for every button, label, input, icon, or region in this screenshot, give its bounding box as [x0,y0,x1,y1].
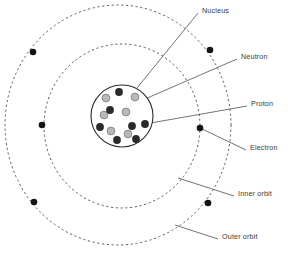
neutron-leader [145,59,237,99]
proton-particle[interactable] [102,94,110,102]
label-electron: Electron [250,143,278,152]
neutron-particle[interactable] [141,120,149,128]
atom-diagram-canvas: Nucleus Neutron Proton Electron Inner or… [0,0,288,254]
labels-group: Nucleus Neutron Proton Electron Inner or… [202,6,278,241]
proton-particle[interactable] [122,108,130,116]
leader-lines-group [137,13,247,239]
neutron-particle[interactable] [113,136,121,144]
electron-leader [200,128,246,150]
electron-outer[interactable] [207,47,214,54]
label-inner-orbit: Inner orbit [238,189,272,198]
electron-outer[interactable] [205,200,212,207]
proton-leader [145,106,247,124]
label-nucleus: Nucleus [202,6,229,15]
label-neutron: Neutron [241,52,268,61]
neutron-particle[interactable] [132,135,140,143]
atom-diagram-svg: Nucleus Neutron Proton Electron Inner or… [0,0,288,254]
label-proton: Proton [251,99,273,108]
proton-particle[interactable] [107,127,115,135]
proton-particle[interactable] [100,111,108,119]
outer-orbit-leader [175,225,218,239]
electron-outer[interactable] [30,49,37,56]
neutron-particle[interactable] [96,123,104,131]
neutron-particle[interactable] [128,122,136,130]
proton-particle[interactable] [124,130,132,138]
electron-inner[interactable] [197,125,204,132]
neutron-particle[interactable] [115,88,123,96]
electron-outer[interactable] [31,199,38,206]
label-outer-orbit: Outer orbit [222,232,258,241]
proton-particle[interactable] [131,93,139,101]
neutron-particle[interactable] [106,106,114,114]
inner-orbit-leader [178,178,234,196]
nucleus-leader [137,13,198,88]
electron-inner[interactable] [39,122,46,129]
